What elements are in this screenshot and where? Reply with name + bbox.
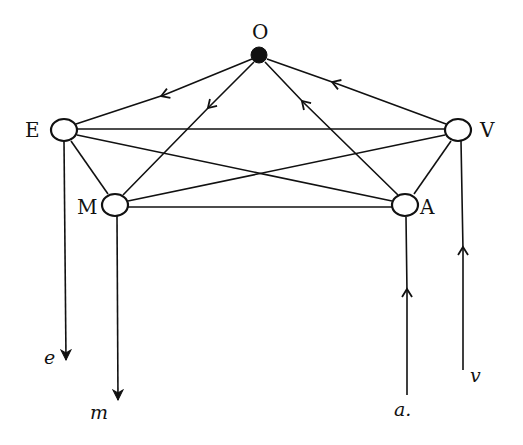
node-V: [445, 119, 471, 141]
edge-E-A: [77, 135, 392, 201]
label-M: M: [77, 197, 97, 217]
label-m: m: [90, 403, 108, 422]
network-diagram: O E V M A e m a. v: [0, 0, 523, 445]
label-v: v: [470, 366, 481, 385]
terminal-m-line: [117, 216, 118, 400]
label-V: V: [480, 120, 494, 140]
label-e: e: [44, 348, 55, 367]
edge-E-M: [71, 141, 108, 194]
label-a: a.: [394, 400, 411, 419]
label-E: E: [25, 120, 40, 140]
terminal-v-line: [461, 141, 463, 370]
edge-V-A: [414, 141, 451, 194]
node-O: [251, 47, 267, 63]
terminal-e-line: [64, 141, 66, 360]
label-O: O: [252, 22, 268, 42]
node-E: [51, 119, 77, 141]
node-A: [392, 194, 418, 216]
diagram-canvas: [0, 0, 523, 445]
label-A: A: [420, 197, 434, 217]
edge-M-V: [128, 135, 445, 201]
node-M: [102, 194, 128, 216]
terminal-a-line: [406, 217, 407, 395]
